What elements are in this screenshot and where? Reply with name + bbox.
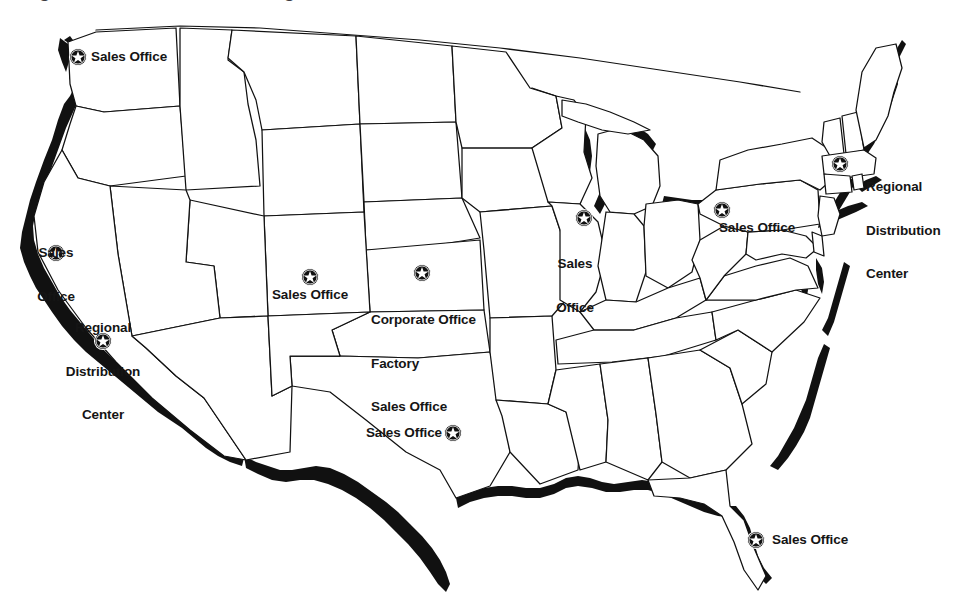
label-line: Center bbox=[66, 408, 141, 423]
marker-connecticut[interactable] bbox=[831, 155, 850, 174]
marker-texas[interactable] bbox=[444, 424, 463, 443]
label-line: Distribution bbox=[866, 224, 941, 239]
marker-colorado[interactable] bbox=[301, 268, 320, 287]
us-locations-map-page: Regional sales, manufacturing and distri… bbox=[0, 0, 968, 611]
state-new-york bbox=[716, 138, 836, 190]
label-washington: Sales Office bbox=[91, 50, 167, 65]
state-arkansas bbox=[490, 316, 556, 404]
marker-illinois[interactable] bbox=[575, 209, 594, 228]
star-in-circle-icon bbox=[413, 264, 432, 283]
star-in-circle-icon bbox=[713, 201, 732, 220]
label-line: Center bbox=[866, 267, 941, 282]
label-southern-california: Regional Distribution Center bbox=[66, 292, 141, 452]
us-map-graphic bbox=[0, 0, 968, 611]
label-line: Sales bbox=[37, 246, 75, 261]
marker-kansas[interactable] bbox=[413, 264, 432, 283]
label-texas: Sales Office bbox=[366, 426, 442, 441]
mexico-border-shadow bbox=[244, 456, 450, 592]
star-in-circle-icon bbox=[444, 424, 463, 443]
label-line: Sales Office bbox=[371, 400, 476, 415]
label-colorado: Sales Office bbox=[272, 288, 348, 303]
label-line: Regional bbox=[66, 321, 141, 336]
label-line: Distribution bbox=[66, 365, 141, 380]
label-pennsylvania: Sales Office bbox=[719, 221, 795, 236]
southeast-atlantic-shadow bbox=[770, 344, 830, 470]
marker-florida[interactable] bbox=[747, 531, 766, 550]
us-map-svg bbox=[0, 0, 968, 611]
mid-atlantic-shadow bbox=[822, 262, 850, 336]
label-kansas: Corporate Office Factory Sales Office bbox=[371, 284, 476, 444]
state-oregon bbox=[62, 106, 186, 186]
star-in-circle-icon bbox=[575, 209, 594, 228]
label-illinois: Sales Office bbox=[556, 228, 594, 344]
state-wyoming bbox=[262, 124, 364, 216]
star-in-circle-icon bbox=[69, 48, 88, 67]
marker-pennsylvania[interactable] bbox=[713, 201, 732, 220]
state-ohio bbox=[644, 200, 700, 288]
label-line: Regional bbox=[866, 180, 941, 195]
label-line: Office bbox=[556, 301, 594, 316]
state-rhode-island bbox=[852, 174, 864, 190]
marker-washington[interactable] bbox=[69, 48, 88, 67]
state-connecticut bbox=[824, 174, 852, 194]
state-washington bbox=[68, 28, 180, 112]
state-north-dakota bbox=[356, 36, 456, 124]
label-connecticut: Regional Distribution Center bbox=[866, 151, 941, 311]
state-maine bbox=[856, 44, 902, 148]
label-line: Sales bbox=[556, 257, 594, 272]
state-south-dakota bbox=[360, 122, 462, 202]
star-in-circle-icon bbox=[301, 268, 320, 287]
label-florida: Sales Office bbox=[772, 533, 848, 548]
state-indiana bbox=[598, 212, 646, 302]
label-line: Corporate Office bbox=[371, 313, 476, 328]
star-in-circle-icon bbox=[747, 531, 766, 550]
label-line: Factory bbox=[371, 357, 476, 372]
star-in-circle-icon bbox=[831, 155, 850, 174]
